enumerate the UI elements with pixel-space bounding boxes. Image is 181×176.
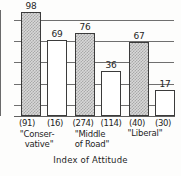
x-axis-line — [14, 116, 175, 117]
y-axis-tick-100 — [0, 10, 1, 11]
y-axis-tick-40 — [0, 74, 1, 75]
y-axis-tick-60 — [0, 52, 1, 53]
bar-middle-shaded — [75, 33, 95, 116]
bar-value-label-2: 69 — [44, 29, 70, 39]
x-axis-title: Index of Attitude — [0, 155, 181, 165]
bar-value-label-3: 76 — [72, 22, 98, 32]
plot-area: 98 69 76 36 67 17 — [14, 10, 174, 116]
y-axis-line — [0, 10, 1, 116]
group-label-conservative-line2: vative" — [10, 139, 68, 149]
sample-size-6: (30) — [146, 118, 180, 128]
group-label-middle-line2: of Road" — [64, 139, 120, 149]
bar-conservative-plain — [47, 40, 67, 116]
bar-value-label-5: 67 — [126, 31, 152, 41]
y-axis-tick-80 — [0, 31, 1, 32]
group-label-conservative-line1: "Conser- — [8, 129, 66, 139]
bar-liberal-plain — [155, 90, 175, 116]
bar-conservative-shaded — [21, 12, 41, 116]
bar-chart-figure: 98 69 76 36 67 17 (91) (16) (274) (114) … — [0, 0, 181, 176]
bar-middle-plain — [101, 71, 121, 116]
bar-value-label-6: 17 — [152, 79, 178, 89]
y-axis-tick-20 — [0, 95, 1, 96]
bar-value-label-4: 36 — [98, 60, 124, 70]
group-label-liberal-line1: "Liberal" — [116, 128, 174, 138]
bar-liberal-shaded — [129, 42, 149, 116]
group-label-middle-line1: "Middle — [62, 129, 118, 139]
bar-value-label-1: 98 — [18, 1, 44, 11]
